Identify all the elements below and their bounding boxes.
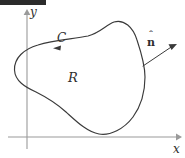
curve-orientation-arrowhead [53,46,61,51]
normal-vector-label: ˆ n [147,33,155,48]
diagram-svg [0,0,185,158]
x-axis-arrowhead [176,133,182,140]
y-axis-label: y [30,6,37,18]
closed-curve-c [14,21,145,134]
normal-letter: n [147,38,155,48]
region-label: R [68,71,78,84]
normal-vector-line [143,47,172,67]
x-axis-label: x [173,143,180,155]
figure-canvas: y x C R ˆ n [0,0,185,158]
curve-label: C [57,32,66,44]
normal-vector-arrowhead [169,44,178,50]
